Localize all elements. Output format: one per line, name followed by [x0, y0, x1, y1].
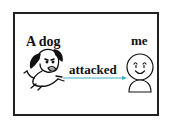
arrow-icon — [63, 76, 127, 80]
dog-icon — [24, 49, 64, 90]
person-icon — [127, 54, 153, 92]
diagram-graphics — [0, 0, 174, 127]
